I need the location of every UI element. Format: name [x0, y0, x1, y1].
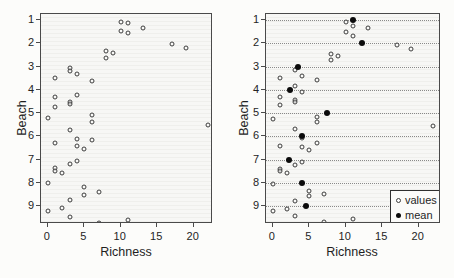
value-point — [53, 76, 58, 81]
value-point — [285, 206, 290, 211]
y-tick-label: 8 — [16, 176, 34, 188]
y-axis-tick — [36, 182, 40, 183]
value-point — [343, 20, 348, 25]
left-scatter-plot-area — [40, 13, 212, 223]
mean-point — [287, 87, 293, 93]
y-axis-tick — [36, 205, 40, 206]
y-axis-tick — [261, 66, 265, 67]
x-axis-tick — [193, 223, 194, 227]
y-axis-tick — [261, 205, 265, 206]
beach-gridline — [266, 136, 439, 137]
value-point — [67, 128, 72, 133]
mean-point — [359, 40, 365, 46]
left-x-axis-label: Richness — [66, 245, 186, 259]
value-point — [307, 148, 312, 153]
x-axis-tick — [120, 223, 121, 227]
right-x-axis-label: Richness — [292, 245, 412, 259]
y-tick-label: 1 — [16, 13, 34, 25]
y-tick-label: 8 — [241, 176, 259, 188]
value-point — [53, 95, 58, 100]
legend-label-values: values — [405, 194, 437, 206]
value-point — [278, 143, 283, 148]
value-point — [53, 140, 58, 145]
y-tick-label: 2 — [241, 36, 259, 48]
filled-circle-icon — [396, 213, 401, 218]
x-axis-tick — [156, 223, 157, 227]
y-axis-tick — [36, 112, 40, 113]
x-axis-tick — [83, 223, 84, 227]
mean-point — [303, 203, 309, 209]
value-point — [314, 114, 319, 119]
x-tick-label: 5 — [295, 230, 321, 242]
value-point — [104, 49, 109, 54]
value-point — [299, 73, 304, 78]
value-point — [292, 126, 297, 131]
x-tick-label: 10 — [107, 230, 133, 242]
beach-gridline — [266, 113, 439, 114]
mean-point — [350, 17, 356, 23]
value-point — [74, 136, 79, 141]
value-point — [314, 140, 319, 145]
value-point — [89, 120, 94, 125]
value-point — [169, 42, 174, 47]
legend-row-mean: mean — [391, 208, 440, 223]
mean-point — [299, 180, 305, 186]
x-tick-label: 15 — [143, 230, 169, 242]
y-tick-label: 2 — [16, 36, 34, 48]
value-point — [67, 102, 72, 107]
mean-point — [299, 133, 305, 139]
y-axis-tick — [36, 135, 40, 136]
y-tick-label: 7 — [16, 153, 34, 165]
value-point — [394, 43, 399, 48]
value-point — [126, 217, 131, 222]
y-tick-label: 9 — [16, 199, 34, 211]
value-point — [329, 57, 334, 62]
mean-point — [295, 64, 301, 70]
x-axis-tick — [345, 223, 346, 227]
value-point — [45, 181, 50, 186]
value-point — [67, 162, 72, 167]
legend-row-values: values — [391, 193, 440, 208]
value-point — [82, 192, 87, 197]
value-point — [292, 199, 297, 204]
y-tick-label: 5 — [16, 106, 34, 118]
value-point — [53, 104, 58, 109]
value-point — [278, 76, 283, 81]
x-axis-tick — [308, 223, 309, 227]
y-axis-tick — [261, 19, 265, 20]
x-axis-tick — [381, 223, 382, 227]
value-point — [409, 47, 414, 52]
value-point — [126, 31, 131, 36]
value-point — [82, 146, 87, 151]
value-point — [321, 219, 326, 223]
value-point — [82, 184, 87, 189]
value-point — [60, 171, 65, 176]
value-point — [365, 26, 370, 31]
beach-gridline — [266, 43, 439, 44]
value-point — [74, 158, 79, 163]
value-point — [96, 189, 101, 194]
y-tick-label: 6 — [16, 129, 34, 141]
x-tick-label: 15 — [368, 230, 394, 242]
value-point — [314, 120, 319, 125]
y-tick-label: 6 — [241, 129, 259, 141]
value-point — [67, 68, 72, 73]
value-point — [292, 213, 297, 218]
value-point — [89, 78, 94, 83]
right-scatter-plot-area: values mean — [265, 13, 440, 223]
value-point — [74, 71, 79, 76]
value-point — [89, 113, 94, 118]
value-point — [74, 144, 79, 149]
value-point — [67, 197, 72, 202]
y-tick-label: 4 — [16, 83, 34, 95]
y-axis-tick — [36, 66, 40, 67]
legend-box: values mean — [390, 190, 440, 223]
x-tick-label: 20 — [405, 230, 431, 242]
value-point — [351, 34, 356, 39]
value-point — [118, 19, 123, 24]
value-point — [307, 193, 312, 198]
value-point — [431, 124, 436, 129]
value-point — [270, 209, 275, 214]
y-axis-tick — [36, 89, 40, 90]
beach-gridline — [266, 160, 439, 161]
